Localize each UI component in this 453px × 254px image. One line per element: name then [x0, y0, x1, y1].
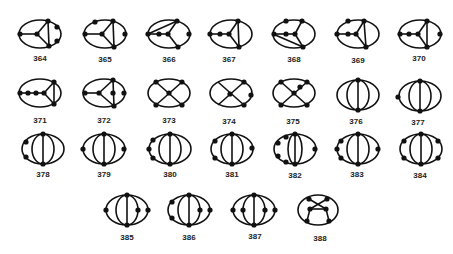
graph-383: [334, 131, 380, 166]
graph-377: [395, 78, 441, 113]
graph-label: 386: [182, 233, 196, 242]
graph-label: 385: [120, 233, 134, 242]
graph-label: 384: [413, 171, 427, 180]
graph-label: 381: [225, 170, 239, 179]
graph-364: [17, 18, 61, 48]
graph-380: [146, 131, 191, 166]
graph-388: [298, 195, 338, 225]
graph-382: [274, 131, 318, 166]
graph-label: 364: [33, 54, 47, 63]
graph-384: [400, 131, 442, 166]
graph-label: 366: [162, 55, 176, 64]
graph-label: 376: [349, 117, 363, 126]
graph-label: 378: [36, 170, 50, 179]
graph-387: [230, 192, 277, 227]
graph-label: 388: [313, 234, 327, 243]
graph-385: [103, 192, 150, 227]
graph-369: [334, 18, 379, 49]
graph-373: [148, 79, 190, 108]
graph-376: [337, 77, 379, 112]
graph-label: 379: [97, 170, 111, 179]
graph-label: 380: [163, 170, 177, 179]
graph-label: 382: [288, 171, 302, 180]
graph-catalog: 364 365 366 367 368 369 370 371 372 373 …: [0, 0, 453, 254]
graph-365: [82, 18, 127, 49]
graph-label: 373: [162, 116, 176, 125]
graph-366: [145, 18, 191, 49]
graph-label: 375: [286, 117, 300, 126]
graph-370: [397, 18, 442, 49]
graph-386: [168, 192, 213, 227]
graph-374: [210, 79, 254, 108]
graph-378: [22, 131, 64, 166]
graph-label: 374: [222, 117, 236, 126]
graph-label: 369: [351, 56, 365, 65]
graph-371: [17, 79, 61, 107]
graph-372: [82, 77, 126, 108]
graph-368: [271, 18, 315, 49]
graph-label: 367: [222, 55, 236, 64]
graph-label: 371: [33, 116, 47, 125]
graph-label: 365: [98, 55, 112, 64]
graph-379: [80, 131, 126, 166]
graph-label: 377: [411, 118, 425, 127]
graph-label: 370: [412, 54, 426, 63]
graph-375: [273, 79, 315, 108]
graph-381: [211, 131, 255, 166]
graph-label: 372: [97, 116, 111, 125]
graph-label: 387: [248, 232, 262, 241]
graph-367: [207, 18, 252, 49]
graph-label: 368: [287, 55, 301, 64]
graph-label: 383: [350, 170, 364, 179]
